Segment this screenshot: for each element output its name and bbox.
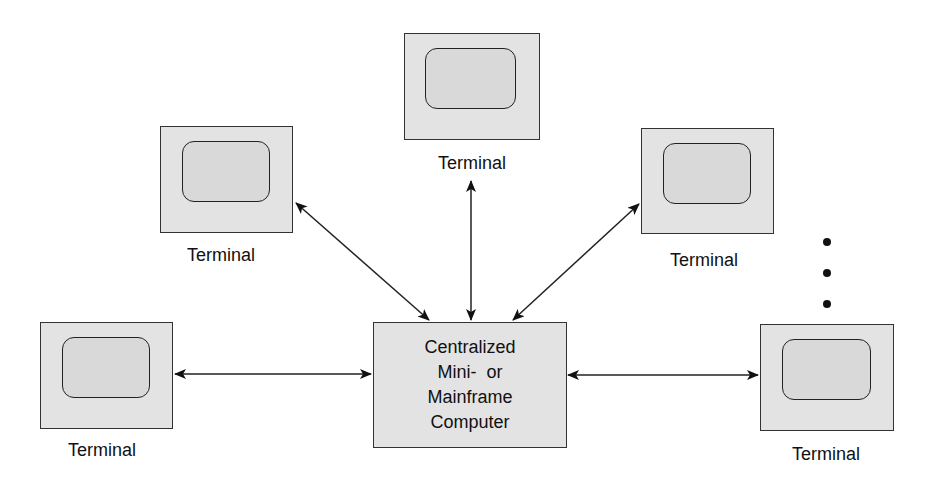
central-line-1: Centralized bbox=[424, 335, 515, 360]
terminal-upper-left-label: Terminal bbox=[141, 245, 301, 265]
terminal-upper-right-label: Terminal bbox=[624, 250, 784, 270]
terminal-top-label: Terminal bbox=[392, 153, 552, 173]
arrow-central-upper-left bbox=[296, 203, 429, 320]
ellipsis-dot bbox=[823, 300, 831, 308]
central-line-2: Mini- or bbox=[437, 360, 502, 385]
ellipsis-dot bbox=[823, 238, 831, 246]
terminal-screen-icon bbox=[425, 48, 516, 109]
terminal-upper-left bbox=[160, 126, 293, 233]
terminal-screen-icon bbox=[62, 337, 150, 398]
terminal-lower-left bbox=[40, 322, 173, 429]
terminal-screen-icon bbox=[663, 143, 751, 204]
central-computer: Centralized Mini- or Mainframe Computer bbox=[373, 322, 567, 448]
terminal-top bbox=[404, 33, 540, 140]
central-line-4: Computer bbox=[430, 410, 509, 435]
arrow-central-upper-right bbox=[513, 204, 639, 320]
terminal-lower-left-label: Terminal bbox=[22, 440, 182, 460]
central-line-3: Mainframe bbox=[427, 385, 512, 410]
terminal-upper-right bbox=[641, 128, 774, 234]
terminal-lower-right bbox=[760, 324, 894, 431]
terminal-lower-right-label: Terminal bbox=[746, 444, 906, 464]
ellipsis-dot bbox=[823, 269, 831, 277]
terminal-screen-icon bbox=[182, 141, 270, 202]
terminal-screen-icon bbox=[782, 339, 871, 400]
